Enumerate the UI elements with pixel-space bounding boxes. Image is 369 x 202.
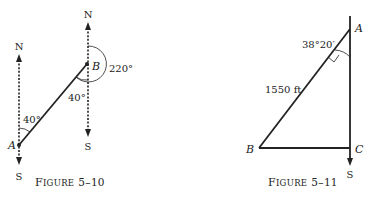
north-south-axis-B [85,22,91,137]
bearing-label-B: 220° [109,63,133,74]
south-arrow-icon [16,157,22,165]
angle-label-B: 40° [68,92,86,103]
point-C-label: C [355,143,364,156]
south-label-B: S [85,141,92,152]
figure-5-11: S A B C 38°20′ 1550 ft FIGURE5–11 [245,16,364,189]
angle-arc-A [335,50,350,57]
point-A-dot [17,143,21,147]
north-south-axis-A [16,54,22,165]
point-A-label: A [354,22,363,35]
figure-5-10: N S N S A B 40° 40° 220° FIGURE5–10 [7,9,133,189]
point-B-label: B [245,143,254,156]
point-A-label: A [7,139,16,152]
south-label: S [347,169,354,180]
figure-caption-5-11: FIGURE5–11 [268,176,338,189]
diagram-canvas: N S N S A B 40° 40° 220° FIGURE5–10 [0,0,369,202]
angle-label-A: 40° [23,114,41,125]
point-B-label: B [91,60,100,73]
segment-AB [19,64,87,145]
north-label-A: N [15,41,24,52]
north-arrow-icon [85,22,91,30]
angle-arc-A [19,128,30,132]
south-arrow-icon [347,158,353,166]
point-B-dot [85,62,89,66]
angle-label-A: 38°20′ [302,39,335,50]
figure-caption-5-10: FIGURE5–10 [35,176,105,189]
side-AB-length: 1550 ft [265,84,301,95]
north-label-B: N [84,9,93,20]
south-arrow-icon [85,129,91,137]
north-arrow-icon [16,54,22,62]
south-label-A: S [16,171,23,182]
